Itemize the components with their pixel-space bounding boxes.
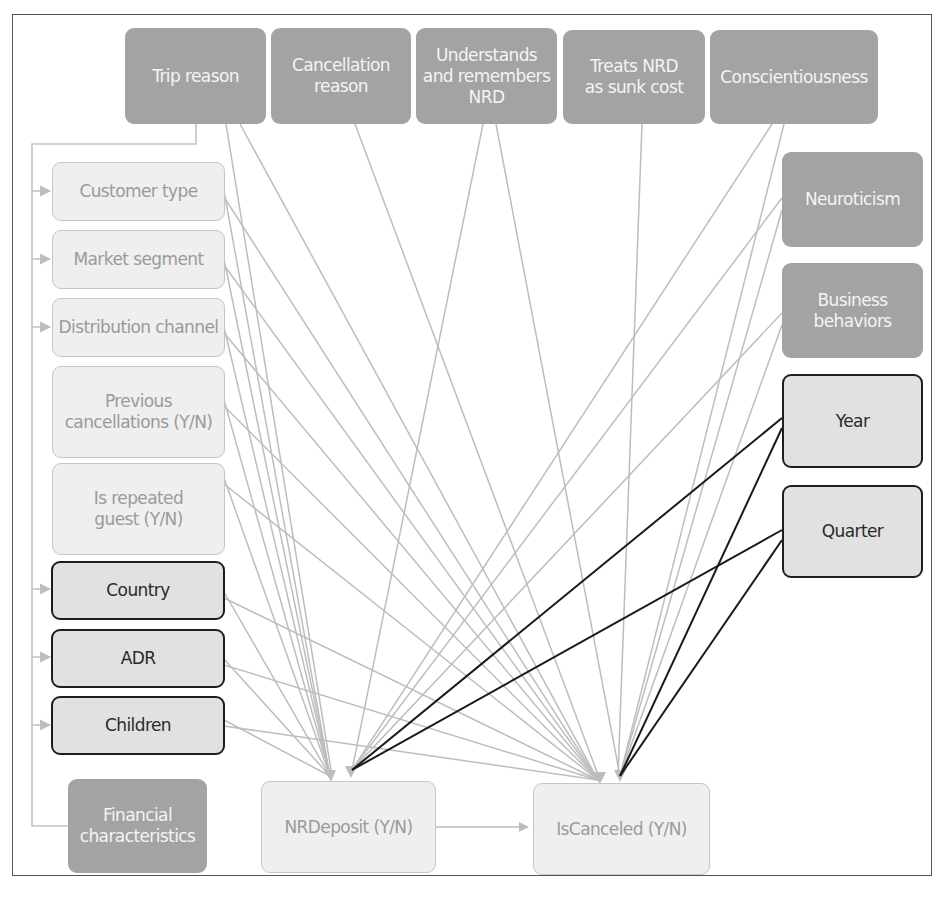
node-children: Children	[51, 696, 225, 755]
gray-edges	[224, 124, 784, 827]
node-understands-nrd: Understands and remembers NRD	[416, 28, 557, 124]
node-nrdeposit: NRDeposit (Y/N)	[261, 781, 436, 873]
node-market-segment: Market segment	[52, 230, 225, 289]
node-country: Country	[51, 561, 225, 620]
node-neuroticism: Neuroticism	[782, 152, 923, 247]
node-business-behaviors: Business behaviors	[782, 263, 923, 358]
node-previous-cancellations: Previous cancellations (Y/N)	[52, 366, 225, 458]
node-year: Year	[782, 374, 923, 468]
node-distribution-channel: Distribution channel	[52, 298, 225, 357]
node-treats-nrd-sunk-cost: Treats NRD as sunk cost	[563, 30, 705, 124]
node-adr: ADR	[51, 629, 225, 688]
node-quarter: Quarter	[782, 485, 923, 578]
node-cancellation-reason: Cancellation reason	[271, 28, 411, 124]
node-is-repeated-guest: Is repeated guest (Y/N)	[52, 463, 225, 555]
node-customer-type: Customer type	[52, 162, 225, 221]
node-conscientiousness: Conscientiousness	[710, 30, 878, 124]
node-trip-reason: Trip reason	[125, 28, 266, 124]
node-financial-characteristics: Financial characteristics	[68, 779, 207, 873]
node-iscanceled: IsCanceled (Y/N)	[533, 783, 710, 875]
